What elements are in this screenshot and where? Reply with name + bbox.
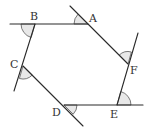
vertex-label-F: F [130,64,138,77]
line-AF-extended [70,6,128,64]
hexagon-exterior-angles-diagram: A B C D E F [0,0,155,134]
vertex-label-C: C [10,58,18,71]
vertex-label-D: D [52,106,61,119]
vertex-label-A: A [88,12,98,25]
vertex-label-B: B [30,10,38,23]
vertex-label-E: E [110,108,118,121]
